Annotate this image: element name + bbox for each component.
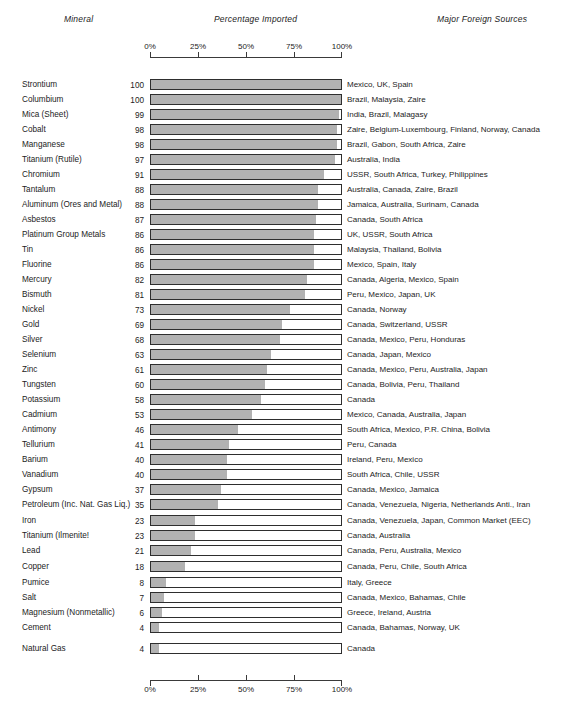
axis-tick-label: 75% xyxy=(286,685,302,694)
percentage-value: 97 xyxy=(98,156,144,165)
axis-tick-label: 100% xyxy=(332,685,352,694)
mineral-label: Selenium xyxy=(22,350,56,359)
foreign-sources-label: South Africa, Mexico, P.R. China, Bolivi… xyxy=(347,425,490,434)
percentage-value: 98 xyxy=(98,141,144,150)
mineral-label: Tellurium xyxy=(22,440,55,449)
bar-fill xyxy=(151,335,280,344)
mineral-label: Chromium xyxy=(22,170,60,179)
bar-fill xyxy=(151,260,314,269)
bar-track xyxy=(150,154,342,165)
axis-tick-mark xyxy=(198,675,199,680)
bar-track xyxy=(150,409,342,420)
percentage-value: 98 xyxy=(98,126,144,135)
mineral-label: Nickel xyxy=(22,305,44,314)
foreign-sources-label: Italy, Greece xyxy=(347,578,392,587)
header-major-foreign-sources: Major Foreign Sources xyxy=(437,14,527,24)
foreign-sources-label: Canada, Peru, Chile, South Africa xyxy=(347,562,467,571)
bar-track xyxy=(150,545,342,556)
foreign-sources-label: Canada, Mexico, Peru, Honduras xyxy=(347,335,465,344)
bar-track xyxy=(150,184,342,195)
mineral-label: Fluorine xyxy=(22,260,52,269)
bar-fill xyxy=(151,410,252,419)
foreign-sources-label: Peru, Canada xyxy=(347,440,396,449)
foreign-sources-label: South Africa, Chile, USSR xyxy=(347,470,439,479)
axis-top: 0%25%50%75%100% xyxy=(150,42,342,66)
axis-tick-label: 0% xyxy=(144,42,156,51)
foreign-sources-label: Jamaica, Australia, Surinam, Canada xyxy=(347,200,479,209)
percentage-value: 86 xyxy=(98,261,144,270)
mineral-label: Strontium xyxy=(22,80,57,89)
axis-tick-label: 25% xyxy=(190,42,206,51)
mineral-label: Cement xyxy=(22,623,51,632)
foreign-sources-label: USSR, South Africa, Turkey, Philippines xyxy=(347,170,488,179)
axis-bottom-line xyxy=(150,680,342,681)
chart-row: Copper18Canada, Peru, Chile, South Afric… xyxy=(0,560,566,575)
mineral-label: Tin xyxy=(22,245,33,254)
chart-row: Lead21Canada, Peru, Australia, Mexico xyxy=(0,544,566,559)
bar-fill xyxy=(151,516,195,525)
chart-row: Columbium100Brazil, Malaysia, Zaire xyxy=(0,93,566,108)
mineral-label: Natural Gas xyxy=(22,644,66,653)
bar-fill xyxy=(151,125,337,134)
foreign-sources-label: Canada, Peru, Australia, Mexico xyxy=(347,546,461,555)
percentage-value: 7 xyxy=(98,594,144,603)
bar-track xyxy=(150,469,342,480)
bar-fill xyxy=(151,455,227,464)
bar-track xyxy=(150,259,342,270)
bar-track xyxy=(150,499,342,510)
bar-track xyxy=(150,94,342,105)
chart-row: Barium40Ireland, Peru, Mexico xyxy=(0,453,566,468)
chart-row: Salt7Canada, Mexico, Bahamas, Chile xyxy=(0,591,566,606)
foreign-sources-label: Zaire, Belgium-Luxembourg, Finland, Norw… xyxy=(347,125,540,134)
axis-tick-mark xyxy=(246,52,247,57)
chart-row: Tungsten60Canada, Bolivia, Peru, Thailan… xyxy=(0,378,566,393)
bar-fill xyxy=(151,562,185,571)
bar-track xyxy=(150,199,342,210)
chart-row: Tantalum88Australia, Canada, Zaire, Braz… xyxy=(0,183,566,198)
foreign-sources-label: Canada, Australia xyxy=(347,531,410,540)
percentage-value: 86 xyxy=(98,231,144,240)
chart-row: Cobalt98Zaire, Belgium-Luxembourg, Finla… xyxy=(0,123,566,138)
mineral-label: Mercury xyxy=(22,275,52,284)
foreign-sources-label: Canada, Venezuela, Japan, Common Market … xyxy=(347,516,531,525)
foreign-sources-label: Brazil, Malaysia, Zaire xyxy=(347,95,426,104)
bar-track xyxy=(150,364,342,375)
bar-fill xyxy=(151,531,195,540)
chart-row: Strontium100Mexico, UK, Spain xyxy=(0,78,566,93)
percentage-value: 8 xyxy=(98,579,144,588)
foreign-sources-label: India, Brazil, Malagasy xyxy=(347,110,427,119)
chart-row: Zinc61Canada, Mexico, Peru, Australia, J… xyxy=(0,363,566,378)
chart-row: Platinum Group Metals86UK, USSR, South A… xyxy=(0,228,566,243)
percentage-value: 41 xyxy=(98,441,144,450)
chart-row: Chromium91USSR, South Africa, Turkey, Ph… xyxy=(0,168,566,183)
chart-row: Gypsum37Canada, Mexico, Jamaica xyxy=(0,483,566,498)
axis-tick-mark xyxy=(341,681,342,686)
mineral-label: Cobalt xyxy=(22,125,46,134)
bar-track xyxy=(150,244,342,255)
foreign-sources-label: Mexico, Spain, Italy xyxy=(347,260,416,269)
bar-track xyxy=(150,454,342,465)
mineral-label: Columbium xyxy=(22,95,63,104)
axis-bottom: 0%25%50%75%100% xyxy=(150,672,342,696)
bar-fill xyxy=(151,185,318,194)
axis-tick-mark xyxy=(294,675,295,680)
bar-fill xyxy=(151,215,316,224)
foreign-sources-label: Canada, Bahamas, Norway, UK xyxy=(347,623,460,632)
bar-fill xyxy=(151,140,337,149)
percentage-value: 18 xyxy=(98,563,144,572)
bar-fill xyxy=(151,320,282,329)
bar-track xyxy=(150,319,342,330)
bar-fill xyxy=(151,95,341,104)
chart-row: Nickel73Canada, Norway xyxy=(0,303,566,318)
bar-fill xyxy=(151,110,339,119)
axis-tick-mark xyxy=(198,52,199,57)
foreign-sources-label: Canada, Norway xyxy=(347,305,407,314)
bar-track xyxy=(150,79,342,90)
chart-row: Aluminum (Ores and Metal)88Jamaica, Aust… xyxy=(0,198,566,213)
bar-track xyxy=(150,622,342,633)
chart-row: Silver68Canada, Mexico, Peru, Honduras xyxy=(0,333,566,348)
axis-tick-label: 50% xyxy=(238,42,254,51)
bar-track xyxy=(150,577,342,588)
axis-tick-mark xyxy=(341,52,342,57)
mineral-label: Antimony xyxy=(22,425,56,434)
